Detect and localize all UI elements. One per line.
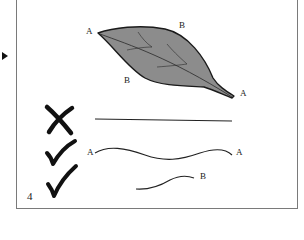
short-curve-line bbox=[136, 176, 194, 189]
play-triangle-icon bbox=[2, 52, 8, 60]
short-curve-end-label: B bbox=[200, 171, 206, 181]
panel-number: 4 bbox=[27, 190, 33, 202]
straight-line bbox=[95, 119, 232, 121]
cross-icon bbox=[47, 107, 72, 133]
wavy-line-start-label: A bbox=[87, 147, 94, 157]
leaf-illustration bbox=[98, 27, 234, 98]
leaf-label-base: A bbox=[240, 88, 247, 98]
wavy-line-end-label: A bbox=[236, 147, 243, 157]
check-icon bbox=[48, 166, 76, 196]
leaf-label-bottom-margin: B bbox=[124, 75, 130, 85]
wavy-line bbox=[95, 148, 232, 159]
leaf-label-top-margin: B bbox=[179, 20, 185, 30]
check-icon bbox=[47, 141, 75, 164]
leaf-label-tip: A bbox=[86, 26, 93, 36]
